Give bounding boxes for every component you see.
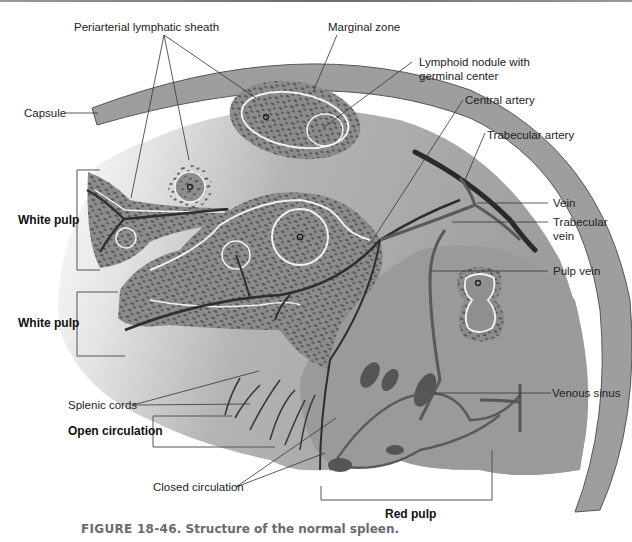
figure-caption-text: Structure of the normal spleen.: [186, 522, 400, 536]
label-vein: Vein: [553, 197, 575, 210]
label-white-pulp-lower: White pulp: [18, 317, 79, 330]
figure-number: FIGURE 18-46.: [81, 522, 182, 536]
label-central-artery: Central artery: [465, 94, 535, 107]
label-red-pulp: Red pulp: [385, 508, 436, 521]
label-trabecular-vein-2: vein: [553, 230, 574, 243]
label-closed-circulation: Closed circulation: [153, 481, 244, 494]
label-venous-sinus: Venous sinus: [552, 387, 620, 400]
label-capsule: Capsule: [24, 107, 66, 120]
label-trabecular-vein-1: Trabecular: [553, 216, 608, 229]
label-lymphoid-nodule-2: germinal center: [419, 70, 498, 83]
label-splenic-cords: Splenic cords: [68, 399, 137, 412]
label-marginal-zone: Marginal zone: [328, 21, 400, 34]
label-lymphoid-nodule-1: Lymphoid nodule with: [419, 56, 530, 69]
label-trabecular-artery: Trabecular artery: [487, 129, 574, 142]
figure-caption: FIGURE 18-46. Structure of the normal sp…: [81, 522, 399, 536]
label-periarterial-sheath: Periarterial lymphatic sheath: [74, 21, 219, 34]
spleen-diagram: [0, 0, 632, 542]
label-white-pulp-upper: White pulp: [18, 214, 79, 227]
label-pulp-vein: Pulp vein: [553, 265, 600, 278]
label-open-circulation: Open circulation: [68, 425, 163, 438]
